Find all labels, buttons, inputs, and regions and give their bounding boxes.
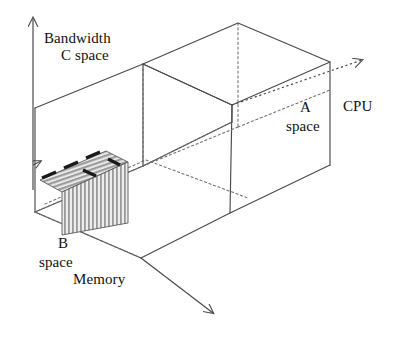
hidden-back-bottom-left-edge	[143, 127, 238, 166]
box-top-left-edge	[35, 64, 143, 108]
axis-label-bandwidth: Bandwidth	[44, 31, 111, 47]
figure-root: Bandwidth C space A space CPU B space Me…	[0, 0, 400, 339]
partition-top-edge	[143, 64, 232, 105]
axis-label-memory: Memory	[73, 272, 125, 288]
box-bottom-front-edge	[141, 213, 230, 258]
box-top-face-edge	[143, 23, 330, 105]
internal-partition-planes	[143, 64, 232, 105]
region-label-a-space-word: space	[286, 119, 320, 135]
hatched-block	[40, 151, 128, 235]
box-bottom-right-edge	[230, 165, 330, 213]
vertical-axis-tick	[33, 161, 41, 165]
region-label-c-space: C space	[61, 48, 109, 64]
hidden-inner-right-edge	[146, 160, 248, 198]
region-label-a-letter: A	[300, 100, 311, 116]
axis-label-cpu: CPU	[343, 99, 372, 115]
design-space-cube-diagram	[0, 0, 400, 339]
region-label-b-space-word: space	[39, 255, 73, 271]
region-label-b-letter: B	[58, 236, 68, 252]
memory-axis-line	[141, 258, 213, 313]
